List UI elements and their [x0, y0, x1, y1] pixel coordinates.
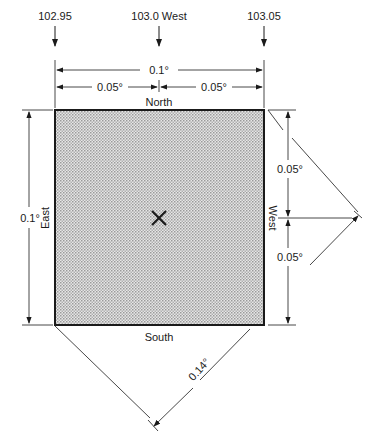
dimension-label: 0.05°	[277, 251, 303, 263]
dimension-top-halves: 0.05° 0.05°	[57, 81, 262, 93]
side-label-east: East	[39, 207, 51, 229]
longitude-label-center: 103.0 West	[131, 10, 186, 22]
dimension-label: 0.14°	[186, 356, 212, 383]
side-label-south: South	[145, 331, 174, 343]
side-label-west: West	[267, 206, 279, 231]
dimension-top-total: 0.1°	[57, 64, 262, 76]
dimension-label: 0.1°	[149, 64, 169, 76]
diagonal-construction-right	[268, 110, 362, 265]
longitude-markers: 102.95 103.0 West 103.05	[38, 10, 281, 46]
dimension-label: 0.05°	[277, 163, 303, 175]
grid-cell-diagram: 102.95 103.0 West 103.05 0.1° 0.05° 0.05…	[0, 0, 377, 445]
dimension-label: 0.1°	[20, 212, 40, 224]
dimension-label: 0.05°	[97, 81, 123, 93]
dimension-label: 0.05°	[201, 81, 227, 93]
side-label-north: North	[146, 96, 173, 108]
longitude-label-right: 103.05	[247, 10, 281, 22]
dimension-right-halves: 0.05° 0.05°	[268, 110, 352, 325]
longitude-label-left: 102.95	[38, 10, 72, 22]
